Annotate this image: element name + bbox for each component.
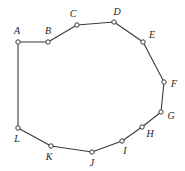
polygon-diagram: ABCDEFGHIJKL bbox=[0, 0, 185, 171]
vertex-label-e: E bbox=[149, 30, 155, 40]
vertex-marker-k bbox=[49, 144, 53, 148]
vertex-label-g: G bbox=[167, 111, 174, 121]
vertex-marker-c bbox=[75, 23, 79, 27]
vertex-marker-j bbox=[90, 150, 94, 154]
vertex-label-a: A bbox=[14, 26, 20, 36]
vertex-label-b: B bbox=[45, 26, 51, 36]
vertex-marker-a bbox=[16, 40, 20, 44]
polygon-canvas bbox=[0, 0, 185, 171]
vertex-label-i: I bbox=[123, 146, 126, 156]
vertex-label-f: F bbox=[171, 79, 177, 89]
vertex-label-c: C bbox=[70, 9, 77, 19]
vertex-marker-e bbox=[141, 40, 145, 44]
polygon-edge-CD bbox=[77, 22, 114, 25]
polygon-edge-KL bbox=[18, 128, 51, 146]
vertex-label-d: D bbox=[113, 7, 120, 17]
polygon-edge-BC bbox=[48, 25, 77, 42]
polygon-edge-DE bbox=[114, 22, 143, 42]
polygon-edge-GH bbox=[142, 112, 161, 127]
vertex-marker-h bbox=[140, 125, 144, 129]
vertex-label-h: H bbox=[146, 129, 153, 139]
vertex-label-l: L bbox=[14, 134, 20, 144]
vertex-marker-i bbox=[120, 139, 124, 143]
vertex-marker-f bbox=[162, 80, 166, 84]
polygon-edge-FG bbox=[161, 82, 164, 112]
polygon-edge-HI bbox=[122, 127, 142, 141]
vertex-marker-g bbox=[159, 110, 163, 114]
polygon-edge-EF bbox=[143, 42, 164, 82]
vertex-label-k: K bbox=[46, 152, 53, 162]
vertex-marker-l bbox=[16, 126, 20, 130]
vertex-marker-d bbox=[112, 20, 116, 24]
polygon-edge-IJ bbox=[92, 141, 122, 152]
polygon-edge-JK bbox=[51, 146, 92, 152]
polygon-vertices bbox=[16, 20, 166, 154]
vertex-marker-b bbox=[46, 40, 50, 44]
vertex-label-j: J bbox=[90, 158, 94, 168]
